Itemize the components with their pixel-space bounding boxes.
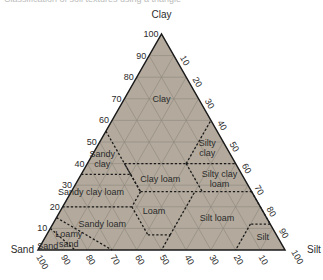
clay-tick: 20 <box>50 202 60 212</box>
sand-tick: 70 <box>108 253 122 267</box>
class-label-clay-loam: Clay loam <box>140 174 180 184</box>
axis-label-silt: Silt <box>307 244 321 255</box>
clay-tick: 70 <box>111 94 121 104</box>
axis-label-clay: Clay <box>151 9 171 20</box>
clay-tick: 40 <box>74 159 84 169</box>
clay-tick: 80 <box>124 72 134 82</box>
sand-tick: 30 <box>207 253 221 267</box>
class-label-clay: Clay <box>152 94 171 104</box>
clay-tick: 50 <box>87 137 97 147</box>
class-label-sand: Sand <box>37 241 58 251</box>
clay-tick: 100 <box>143 29 158 39</box>
sand-tick: 10 <box>257 253 271 267</box>
sand-tick: 20 <box>232 253 246 267</box>
silt-tick: 100 <box>289 248 305 266</box>
class-label-sandy-loam: Sandy loam <box>78 219 126 229</box>
clay-tick: 30 <box>62 180 72 190</box>
class-label-silty-clay: Siltyclay <box>199 138 217 158</box>
clay-tick: 60 <box>99 115 109 125</box>
class-label-silt-loam: Silt loam <box>200 213 235 223</box>
sand-tick: 80 <box>84 253 98 267</box>
sand-tick: 40 <box>182 253 196 267</box>
clay-tick: 90 <box>136 51 146 61</box>
clay-tick: 10 <box>37 223 47 233</box>
sand-tick: 100 <box>34 253 50 271</box>
sand-tick: 60 <box>133 253 147 267</box>
sand-tick: 90 <box>59 253 73 267</box>
soil-texture-triangle: ClaySandyclaySiltyclayClay loamSilty cla… <box>0 0 323 280</box>
class-label-loam: Loam <box>143 206 166 216</box>
sand-tick: 50 <box>158 253 172 267</box>
class-label-silt: Silt <box>257 232 270 242</box>
axis-label-sand: Sand <box>11 244 34 255</box>
